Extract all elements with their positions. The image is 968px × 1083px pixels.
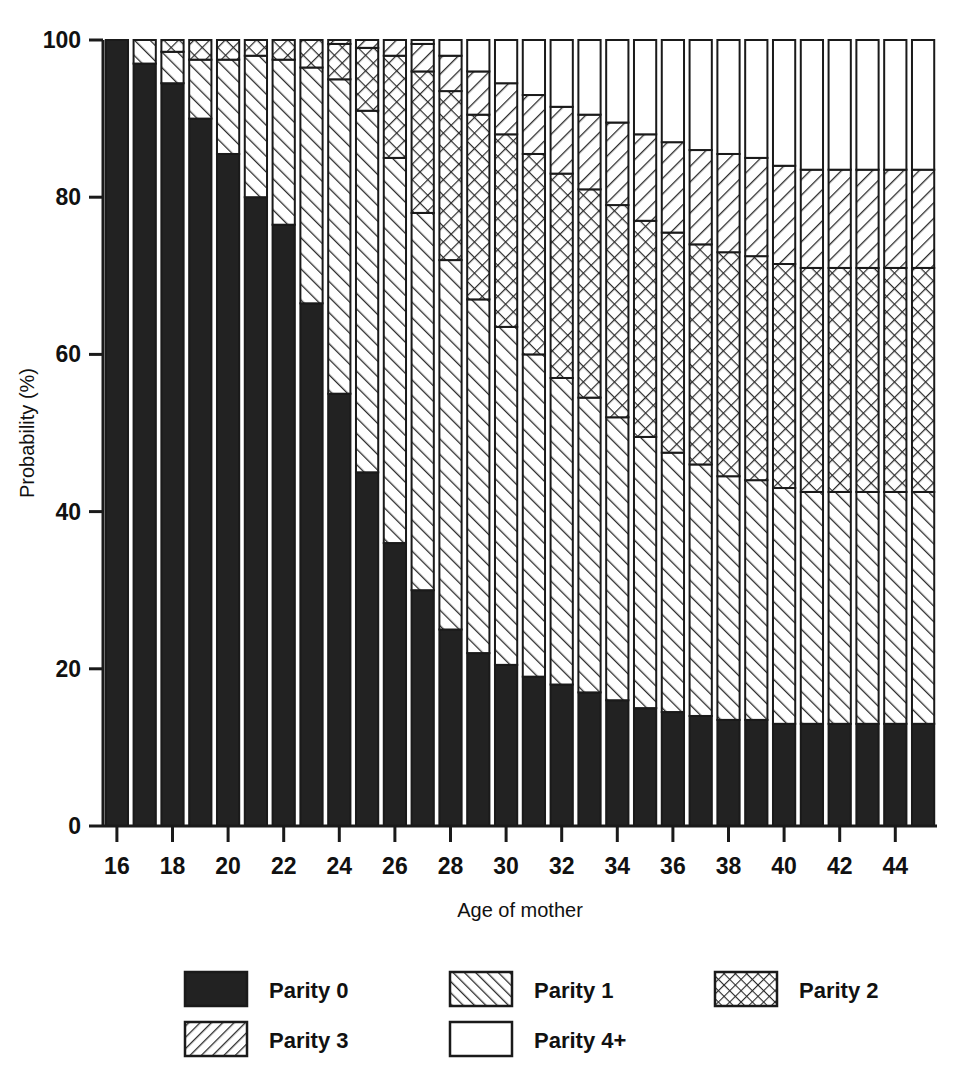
bar-stack <box>300 40 322 826</box>
bar-segment <box>829 492 851 724</box>
bar-segment <box>745 720 767 826</box>
bar-segment <box>273 225 295 826</box>
bar-segment <box>829 724 851 826</box>
y-tick-label: 100 <box>43 27 81 53</box>
legend-label: Parity 0 <box>269 978 349 1003</box>
legend-swatch <box>450 972 512 1006</box>
bar-segment <box>439 260 461 629</box>
bar-segment <box>467 653 489 826</box>
bar-segment <box>690 464 712 716</box>
bar-segment <box>578 115 600 190</box>
bar-segment <box>467 115 489 300</box>
bar-stack <box>217 40 239 826</box>
bar-segment <box>578 398 600 693</box>
bar-segment <box>412 213 434 590</box>
bar-segment <box>217 40 239 60</box>
bar-stack <box>551 40 573 826</box>
legend-swatch <box>185 972 247 1006</box>
bar-segment <box>662 40 684 142</box>
bar-segment <box>300 68 322 304</box>
y-axis-title: Probability (%) <box>16 368 38 498</box>
bar-segment <box>912 40 934 170</box>
bar-segment <box>634 40 656 134</box>
chart-figure: 020406080100 161820222426283032343638404… <box>0 0 968 1083</box>
bar-segment <box>773 264 795 488</box>
bar-segment <box>356 40 378 48</box>
bar-segment <box>884 40 906 170</box>
bar-segment <box>912 170 934 268</box>
bar-segment <box>551 378 573 685</box>
bar-segment <box>412 44 434 72</box>
bar-stack <box>189 40 211 826</box>
bar-stack <box>384 40 406 826</box>
bar-segment <box>161 52 183 83</box>
legend-label: Parity 1 <box>534 978 614 1003</box>
x-tick-label: 44 <box>883 853 909 879</box>
bar-segment <box>717 252 739 476</box>
bar-stack <box>134 40 156 826</box>
bar-segment <box>523 40 545 95</box>
bar-segment <box>856 170 878 268</box>
bar-segment <box>606 40 628 123</box>
bar-segment <box>189 40 211 60</box>
bar-stack <box>773 40 795 826</box>
x-tick-label: 42 <box>827 853 853 879</box>
x-tick-label: 40 <box>771 853 797 879</box>
legend-swatch <box>185 1022 247 1056</box>
bar-segment <box>356 472 378 826</box>
x-tick-label: 36 <box>660 853 686 879</box>
x-tick-label: 34 <box>605 853 631 879</box>
bar-segment <box>745 158 767 256</box>
x-tick-label: 18 <box>160 853 186 879</box>
legend-label: Parity 2 <box>799 978 879 1003</box>
bar-segment <box>801 170 823 268</box>
bar-segment <box>328 79 350 393</box>
bar-segment <box>884 268 906 492</box>
y-tick-label: 40 <box>55 499 81 525</box>
bar-segment <box>578 189 600 397</box>
bar-stack <box>578 40 600 826</box>
bar-stack <box>856 40 878 826</box>
bar-stack <box>412 40 434 826</box>
bar-stack <box>884 40 906 826</box>
bar-segment <box>189 119 211 826</box>
bar-segment <box>106 40 128 826</box>
bar-segment <box>884 170 906 268</box>
bar-segment <box>495 83 517 134</box>
bar-segment <box>662 453 684 712</box>
bar-segment <box>328 394 350 826</box>
bar-segment <box>551 685 573 826</box>
legend-swatch <box>715 972 777 1006</box>
bar-segment <box>717 40 739 154</box>
bar-segment <box>662 142 684 232</box>
bar-segment <box>189 60 211 119</box>
bar-segment <box>856 268 878 492</box>
bar-segment <box>606 123 628 206</box>
bar-segment <box>134 64 156 826</box>
bar-segment <box>773 488 795 724</box>
bar-stack <box>662 40 684 826</box>
bar-segment <box>439 91 461 260</box>
bar-segment <box>161 83 183 826</box>
bar-segment <box>328 44 350 79</box>
bar-segment <box>884 492 906 724</box>
x-tick-label: 24 <box>327 853 353 879</box>
stacked-bar-chart: 020406080100 161820222426283032343638404… <box>0 0 968 1083</box>
bar-segment <box>245 197 267 826</box>
bar-segment <box>551 107 573 174</box>
bar-segment <box>551 40 573 107</box>
bar-segment <box>912 268 934 492</box>
bar-segment <box>134 40 156 64</box>
bar-stack <box>523 40 545 826</box>
bar-segment <box>606 417 628 700</box>
bar-segment <box>690 150 712 244</box>
bar-segment <box>551 174 573 378</box>
x-tick-label: 26 <box>382 853 408 879</box>
bar-segment <box>884 724 906 826</box>
y-tick-label: 20 <box>55 656 81 682</box>
bar-segment <box>773 40 795 166</box>
bar-segment <box>829 268 851 492</box>
bar-stack <box>273 40 295 826</box>
bar-stack <box>439 40 461 826</box>
bar-segment <box>384 40 406 56</box>
